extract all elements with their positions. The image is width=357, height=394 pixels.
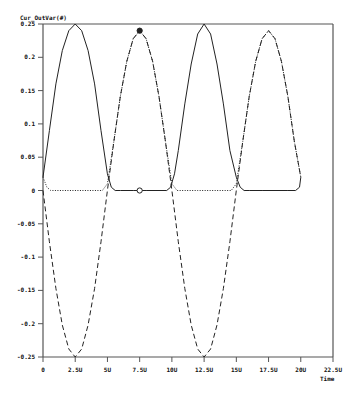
- x-tick-label: 7.5U: [132, 366, 147, 373]
- series-solid: [43, 24, 301, 191]
- plot-series: [43, 24, 301, 357]
- series-dashed: [43, 31, 301, 357]
- series-dotted: [43, 31, 301, 191]
- x-tick-label: 17.5U: [260, 366, 278, 373]
- y-tick-label: -0.05: [17, 220, 35, 227]
- x-tick-label: 12.5U: [195, 366, 213, 373]
- plot-markers: [137, 28, 142, 193]
- y-tick-label: 0.2: [24, 53, 35, 60]
- y-tick-label-top: 0.25: [21, 20, 36, 27]
- cursor-marker-filled[interactable]: [137, 28, 142, 33]
- x-tick-label: 20U: [295, 366, 306, 373]
- y-tick-label: -0.2: [21, 320, 36, 327]
- x-axis-title: Time: [320, 375, 335, 382]
- x-tick-label: 2.5U: [68, 366, 83, 373]
- cursor-marker-hollow[interactable]: [137, 188, 142, 193]
- y-tick-label: 0.1: [24, 120, 35, 127]
- y-tick-label: 0.05: [21, 153, 36, 160]
- x-tick-label: 10U: [166, 366, 177, 373]
- y-tick-label: -0.25: [17, 353, 35, 360]
- y-tick-label: 0: [31, 187, 35, 194]
- x-tick-label: 22.5U: [324, 366, 342, 373]
- plot-axes: 0.20.150.10.050-0.05-0.1-0.15-0.2-0.2502…: [17, 20, 342, 373]
- y-axis-title: Cur_OutVar(#): [20, 14, 67, 22]
- x-tick-label: 0: [41, 366, 45, 373]
- y-tick-label: -0.15: [17, 286, 35, 293]
- x-tick-label: 15U: [231, 366, 242, 373]
- y-tick-label: 0.15: [21, 87, 36, 94]
- line-chart: 0.20.150.10.050-0.05-0.1-0.15-0.2-0.2502…: [0, 0, 357, 394]
- y-tick-label: -0.1: [21, 253, 36, 260]
- x-tick-label: 5U: [104, 366, 112, 373]
